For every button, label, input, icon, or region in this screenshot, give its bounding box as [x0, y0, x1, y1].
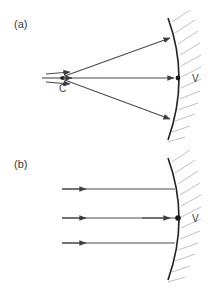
panel-a-vertex-dot	[176, 76, 181, 81]
panel-b-vertex-label: V	[192, 213, 199, 224]
panel-a-center-of-curvature-label: C	[59, 83, 66, 94]
panel-b-label: (b)	[14, 158, 27, 170]
panel-a-lower-incident-ray	[62, 79, 170, 119]
panel-a: (a) C	[14, 10, 201, 142]
panel-b: (b)	[14, 150, 201, 282]
panel-b-vertex-dot	[175, 215, 181, 221]
panel-a-reflected-rays	[42, 72, 72, 84]
panel-a-center-of-curvature-dot	[60, 76, 64, 80]
panel-b-parallel-rays	[62, 189, 178, 243]
panel-a-label: (a)	[14, 18, 27, 30]
concave-mirror-figure: (a) C	[0, 0, 215, 298]
panel-a-vertex-label: V	[192, 73, 199, 84]
panel-a-upper-incident-ray	[62, 38, 170, 77]
